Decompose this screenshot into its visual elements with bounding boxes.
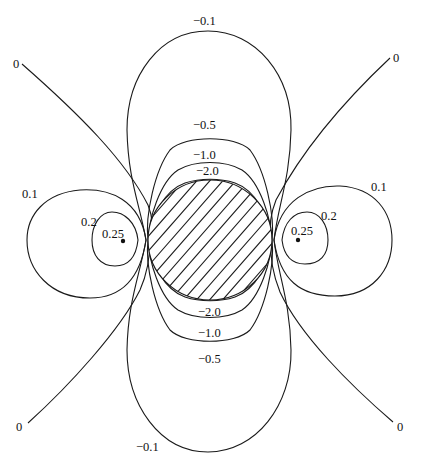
label-bottom-mid: −0.5 [198, 352, 221, 366]
label-right-core: 0.25 [291, 224, 313, 238]
label-top-mid: −0.5 [193, 118, 216, 132]
label-zero-top-right: 0 [393, 51, 399, 65]
label-left-core: 0.25 [102, 227, 124, 241]
label-right-mid: 0.2 [321, 209, 337, 223]
hatch-line [23, 160, 163, 320]
zero-contour-lower-right [271, 240, 393, 422]
contour-pos-0.1-right [274, 186, 392, 296]
label-zero-top-left: 0 [13, 57, 19, 71]
label-bottom-outer: −0.1 [136, 440, 159, 454]
label-top-outer: −0.1 [193, 14, 216, 28]
hatch-line [10, 160, 150, 320]
source-point-right [296, 238, 300, 242]
label-bottom-core: −2.0 [198, 305, 221, 319]
contour-pos-0.1-left [27, 190, 146, 298]
label-left-outer: 0.1 [22, 187, 38, 201]
label-bottom-inner: −1.0 [198, 326, 221, 340]
label-zero-bottom-right: 0 [397, 420, 403, 434]
label-top-core: −2.0 [196, 164, 219, 178]
label-top-inner: −1.0 [193, 148, 216, 162]
label-zero-bottom-left: 0 [16, 420, 22, 434]
zero-contour-lower-left [28, 240, 150, 423]
label-right-outer: 0.1 [371, 180, 387, 194]
contour-diagram: −0.1 −0.5 −1.0 −2.0 −2.0 −1.0 −0.5 −0.1 … [0, 0, 421, 469]
label-left-mid: 0.2 [81, 215, 97, 229]
